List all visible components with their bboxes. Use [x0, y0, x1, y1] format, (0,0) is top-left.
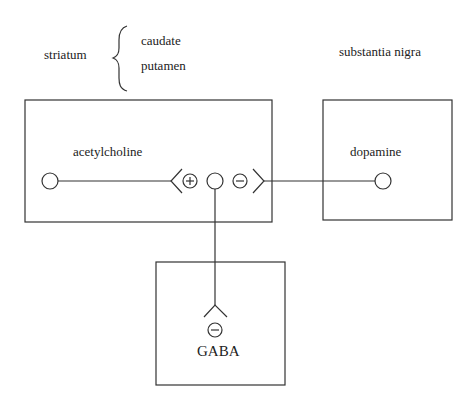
dopamine-soma-icon [375, 173, 391, 189]
caudate-label: caudate [141, 34, 181, 47]
acetylcholine-soma-icon [42, 173, 58, 189]
gaba-label: GABA [197, 344, 240, 359]
substantia-nigra-label: substantia nigra [339, 45, 421, 58]
gaba-box [156, 262, 285, 385]
acetylcholine-label: acetylcholine [73, 145, 142, 158]
dopamine-terminal-icon [253, 169, 264, 193]
curly-brace-icon [113, 26, 127, 91]
striatum-label: striatum [44, 48, 87, 61]
acetylcholine-terminal-icon [171, 169, 182, 193]
gaba-terminal-icon [204, 305, 227, 317]
substantia-nigra-box [323, 100, 452, 220]
striatum-box [25, 100, 272, 222]
target-soma-icon [207, 173, 223, 189]
dopamine-label: dopamine [350, 145, 401, 158]
putamen-label: putamen [141, 59, 186, 72]
